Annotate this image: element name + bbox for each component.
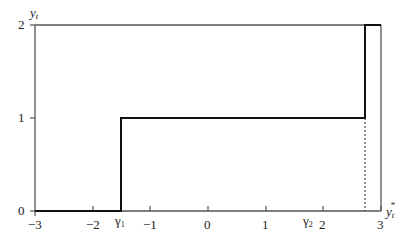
y-tick-label-0: 0 xyxy=(18,203,25,218)
step-function-chart: 0 1 2 yt −3 −2 −1 0 1 2 3 γ1 γ2 yt* xyxy=(0,0,411,242)
x-tick-label-m3: −3 xyxy=(28,217,42,232)
x-tick-label-m2: −2 xyxy=(86,217,100,232)
y-tick-label-2: 2 xyxy=(18,17,25,32)
y-tick-label-1: 1 xyxy=(18,110,25,125)
x-tick-label-0: 0 xyxy=(204,217,211,232)
x-tick-label-1: 1 xyxy=(262,217,269,232)
step-function-line xyxy=(35,25,381,211)
y-axis-label: yt xyxy=(28,5,39,21)
gamma1-label: γ1 xyxy=(114,213,125,229)
x-tick-label-2: 2 xyxy=(319,217,326,232)
x-tick-label-3: 3 xyxy=(377,217,384,232)
x-axis-label: yt* xyxy=(384,200,395,220)
gamma2-label: γ2 xyxy=(302,213,313,229)
x-tick-label-m1: −1 xyxy=(143,217,157,232)
